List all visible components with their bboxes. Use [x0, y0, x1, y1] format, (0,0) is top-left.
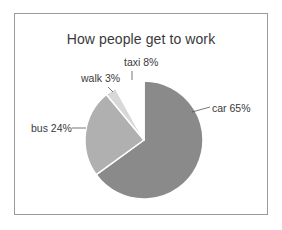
label-car: car 65%	[212, 102, 251, 114]
pie-chart: car 65% bus 24% walk 3% taxi 8%	[0, 0, 282, 230]
label-bus: bus 24%	[31, 122, 72, 134]
label-walk: walk 3%	[80, 72, 120, 84]
pie-slices	[85, 81, 203, 199]
label-taxi: taxi 8%	[124, 56, 158, 68]
